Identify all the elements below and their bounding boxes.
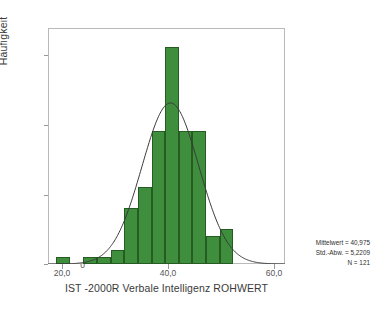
histogram-figure: Häufigkeit 30 20 10 0 20,0 40,0 60,0 IST… (0, 0, 372, 309)
normal-distribution-curve (48, 28, 285, 264)
stat-stddev: Std.-Abw. = 5,2209 (296, 248, 370, 258)
x-tick-label-40: 40,0 (148, 268, 188, 278)
x-tick-label-20: 20,0 (42, 268, 82, 278)
statistics-annotation: Mittelwert = 40,975 Std.-Abw. = 5,2209 N… (296, 238, 370, 268)
x-tick-label-60: 60,0 (254, 268, 294, 278)
y-axis-title: Häufigkeit (0, 0, 9, 96)
y-tick-mark-0 (44, 264, 48, 265)
stat-n: N = 121 (296, 258, 370, 268)
x-axis-title: IST -2000R Verbale Intelligenz ROHWERT (48, 282, 285, 294)
stat-mean: Mittelwert = 40,975 (296, 238, 370, 248)
